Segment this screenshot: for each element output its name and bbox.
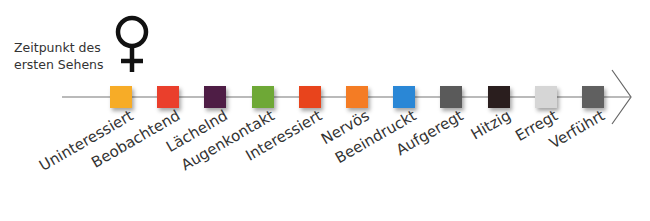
stage-marker — [440, 86, 462, 108]
stage-marker — [488, 86, 510, 108]
stage-marker — [299, 86, 321, 108]
stage-marker — [582, 86, 604, 108]
stage-marker — [157, 86, 179, 108]
stage-marker — [346, 86, 368, 108]
stage-marker — [252, 86, 274, 108]
stage-marker — [393, 86, 415, 108]
stage-marker — [110, 86, 132, 108]
stage-marker — [204, 86, 226, 108]
stage-marker — [535, 86, 557, 108]
